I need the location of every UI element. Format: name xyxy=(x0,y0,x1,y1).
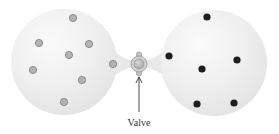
gray-particle xyxy=(35,39,42,46)
black-particle xyxy=(233,56,240,63)
black-particle xyxy=(193,100,200,107)
gray-particle xyxy=(69,14,76,21)
left-flask xyxy=(11,9,117,115)
valve-inner-disc xyxy=(134,59,144,69)
gray-particle xyxy=(60,98,67,105)
gray-particle xyxy=(109,60,116,67)
black-particle xyxy=(165,52,172,59)
black-particle xyxy=(203,13,210,20)
flask-valve-diagram xyxy=(0,0,279,134)
black-particle xyxy=(198,65,205,72)
gray-particle xyxy=(85,40,92,47)
gray-particle xyxy=(29,66,36,73)
valve-icon xyxy=(131,52,147,76)
black-particle xyxy=(230,99,237,106)
right-flask xyxy=(161,10,267,116)
valve-label: Valve xyxy=(128,117,151,128)
gray-particle xyxy=(78,76,85,83)
valve-pointer-arrow xyxy=(136,77,142,112)
right-flask-body xyxy=(161,10,267,116)
gray-particle xyxy=(65,51,72,58)
